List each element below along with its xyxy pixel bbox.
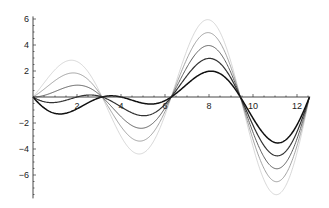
y-tick-label: −2: [19, 118, 29, 128]
y-tick-label: 6: [24, 14, 29, 24]
y-tick-label: −6: [19, 170, 29, 180]
x-tick-label: 12: [292, 101, 302, 111]
y-tick-label: 2: [24, 66, 29, 76]
x-tick-label: 2: [74, 101, 79, 111]
x-tick-label: 8: [206, 101, 211, 111]
y-tick-label: −4: [19, 144, 29, 154]
x-tick-label: 4: [118, 101, 123, 111]
y-tick-label: 4: [24, 40, 29, 50]
function-plot: 24681012−6−4−2246: [0, 0, 329, 208]
x-tick-label: 6: [162, 101, 167, 111]
x-tick-label: 10: [248, 101, 258, 111]
ticks-group: 24681012−6−4−2246: [19, 14, 308, 195]
